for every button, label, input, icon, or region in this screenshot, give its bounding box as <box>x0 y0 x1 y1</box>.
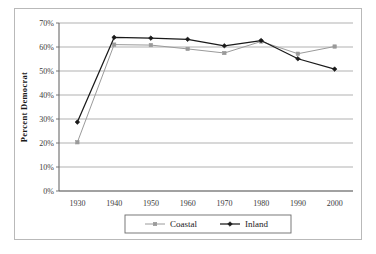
series-line <box>77 41 334 142</box>
chart-frame: 0%10%20%30%40%50%60%70%19301940195019601… <box>14 8 362 240</box>
y-axis-tick-label: 0% <box>43 187 54 196</box>
data-point-marker <box>112 43 115 46</box>
data-point-marker <box>185 37 190 42</box>
y-axis-tick-label: 50% <box>39 67 54 76</box>
y-axis-tick-label: 20% <box>39 139 54 148</box>
y-axis-tick-label: 40% <box>39 91 54 100</box>
data-point-marker <box>149 36 154 41</box>
chart-plot-area: 0%10%20%30%40%50%60%70%19301940195019601… <box>15 9 363 241</box>
x-axis-tick-label: 1980 <box>253 199 269 208</box>
data-point-marker <box>112 35 117 40</box>
data-point-marker <box>186 47 189 50</box>
legend-label-coastal: Coastal <box>170 219 197 229</box>
legend-label-inland: Inland <box>245 219 268 229</box>
y-axis-tick-label: 10% <box>39 163 54 172</box>
legend-marker-coastal <box>153 222 156 225</box>
data-point-marker <box>223 51 226 54</box>
y-axis-tick-label: 60% <box>39 43 54 52</box>
data-point-marker <box>333 45 336 48</box>
line-chart: 0%10%20%30%40%50%60%70%19301940195019601… <box>15 9 363 241</box>
data-point-marker <box>75 120 80 125</box>
x-axis-tick-label: 1960 <box>180 199 196 208</box>
series-line <box>77 37 334 122</box>
x-axis-tick-label: 1950 <box>143 199 159 208</box>
data-point-marker <box>296 56 301 61</box>
x-axis-tick-label: 1990 <box>290 199 306 208</box>
x-axis-tick-label: 1930 <box>69 199 85 208</box>
series-inland <box>75 35 337 124</box>
x-axis-tick-label: 1970 <box>216 199 232 208</box>
y-axis-tick-label: 30% <box>39 115 54 124</box>
data-point-marker <box>76 141 79 144</box>
x-axis-tick-label: 1940 <box>106 199 122 208</box>
y-axis-tick-label: 70% <box>39 19 54 28</box>
data-point-marker <box>149 43 152 46</box>
x-axis-tick-label: 2000 <box>327 199 343 208</box>
data-point-marker <box>296 52 299 55</box>
y-axis-title: Percent Democrat <box>19 72 29 142</box>
series-coastal <box>76 40 337 144</box>
